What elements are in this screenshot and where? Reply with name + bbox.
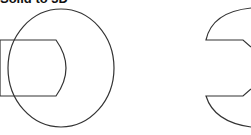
ellipse-shape (8, 9, 114, 127)
boolean-diagram (0, 0, 251, 135)
notched-circle-shape (206, 8, 251, 127)
rect-shape (0, 40, 66, 96)
